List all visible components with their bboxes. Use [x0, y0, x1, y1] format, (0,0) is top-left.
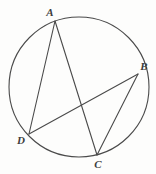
vertex-label-c: C [94, 158, 102, 170]
circumscribed-circle [9, 17, 149, 157]
vertex-label-d: D [16, 134, 25, 146]
chord-db [29, 74, 138, 134]
geometry-canvas: A B C D [0, 0, 156, 174]
chord-ac [55, 21, 97, 155]
chord-ad [29, 21, 55, 134]
vertex-label-b: B [139, 60, 147, 72]
vertex-label-a: A [45, 6, 53, 18]
chord-bc [97, 74, 138, 155]
geometry-diagram: A B C D [0, 0, 156, 174]
